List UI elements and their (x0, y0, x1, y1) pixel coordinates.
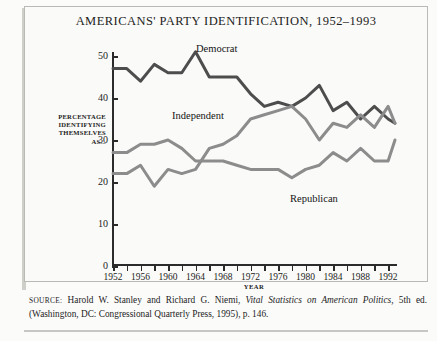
series-line-independent (113, 106, 395, 186)
source-text-part-1: Harold W. Stanley and Richard G. Niemi, (62, 295, 245, 305)
source-label: SOURCE: (29, 296, 62, 305)
series-label-republican: Republican (290, 193, 338, 204)
bottom-rule (24, 330, 428, 332)
series-line-democrat (113, 52, 395, 123)
source-title-italic: Vital Statistics on American Politics, (246, 295, 394, 305)
series-label-independent: Independent (172, 110, 224, 121)
series-line-republican (113, 140, 395, 178)
source-note: SOURCE: Harold W. Stanley and Richard G.… (29, 294, 427, 320)
figure-page: AMERICANS' PARTY IDENTIFICATION, 1952–19… (0, 0, 437, 341)
series-label-democrat: Democrat (196, 43, 237, 54)
